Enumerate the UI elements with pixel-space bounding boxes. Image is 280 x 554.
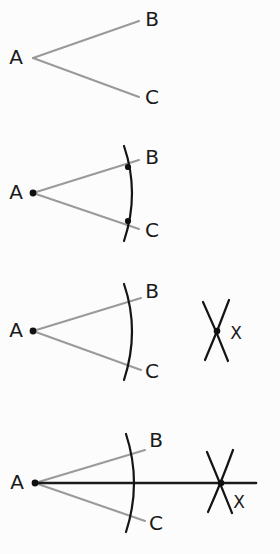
step-2-intersection-c — [125, 218, 131, 224]
angle-bisector-construction-canvas: ABCABCABCXABCX — [0, 0, 280, 554]
panel-step-2: ABC — [9, 145, 159, 242]
step-3-label-c: C — [145, 359, 159, 383]
step-4-vertex-dot-a — [32, 480, 39, 487]
step-1-ray-ab — [33, 21, 139, 58]
panel-step-1: ABC — [9, 7, 159, 109]
step-1-label-b: B — [145, 7, 159, 31]
step-2-vertex-dot-a — [30, 190, 37, 197]
step-4-label-x: X — [233, 492, 245, 512]
step-2-label-b: B — [145, 145, 159, 169]
step-4-ray-ac — [35, 483, 145, 521]
step-2-ray-ab — [33, 160, 139, 193]
panels-group: ABCABCABCXABCX — [9, 7, 256, 535]
step-2-intersection-b — [125, 164, 131, 170]
step-3-label-b: B — [145, 279, 159, 303]
step-4-intersection-x — [218, 480, 225, 487]
step-3-vertex-dot-a — [30, 328, 37, 335]
construction-figure: ABCABCABCXABCX — [0, 0, 280, 554]
step-3-label-x: X — [230, 323, 242, 343]
step-1-label-c: C — [145, 85, 159, 109]
step-1-ray-ac — [33, 58, 139, 97]
step-2-label-a: A — [9, 180, 23, 204]
step-4-label-a: A — [10, 470, 24, 494]
step-3-intersection-x — [214, 328, 221, 335]
step-3-ray-ac — [33, 331, 141, 370]
step-2-label-c: C — [145, 218, 159, 242]
panel-step-4: ABCX — [10, 428, 256, 535]
step-3-label-a: A — [9, 318, 23, 342]
step-4-ray-ab — [35, 450, 145, 483]
step-2-ray-ac — [33, 193, 139, 229]
step-4-label-c: C — [149, 511, 163, 535]
step-1-label-a: A — [9, 45, 23, 69]
panel-step-3: ABCX — [9, 279, 242, 383]
step-4-label-b: B — [149, 428, 163, 452]
step-3-ray-ab — [33, 298, 141, 331]
